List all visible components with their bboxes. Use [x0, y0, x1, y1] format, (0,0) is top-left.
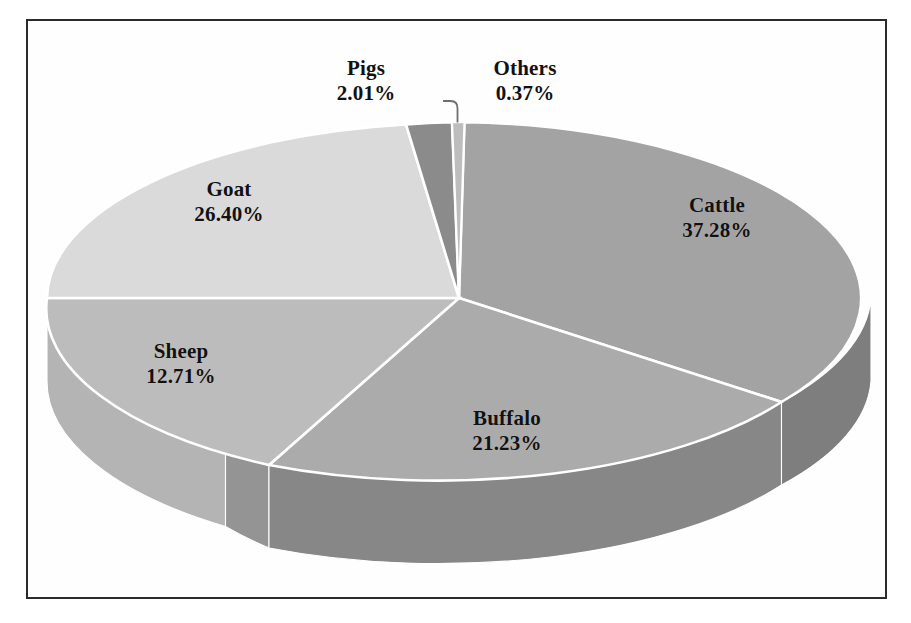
- label-others-name: Others: [450, 56, 600, 81]
- figure-canvas: Cattle 37.28% Buffalo 21.23% Sheep 12.71…: [0, 0, 911, 623]
- label-sheep-name: Sheep: [86, 339, 276, 364]
- label-cattle: Cattle 37.28%: [622, 193, 812, 243]
- label-pigs-name: Pigs: [301, 56, 431, 81]
- label-cattle-value: 37.28%: [622, 218, 812, 243]
- label-goat: Goat 26.40%: [134, 177, 324, 227]
- label-pigs: Pigs 2.01%: [301, 56, 431, 106]
- label-sheep-value: 12.71%: [86, 364, 276, 389]
- label-pigs-value: 2.01%: [301, 81, 431, 106]
- label-goat-value: 26.40%: [134, 202, 324, 227]
- label-others-value: 0.37%: [450, 81, 600, 106]
- label-others: Others 0.37%: [450, 56, 600, 106]
- label-buffalo-name: Buffalo: [412, 406, 602, 431]
- label-sheep: Sheep 12.71%: [86, 339, 276, 389]
- label-cattle-name: Cattle: [622, 193, 812, 218]
- label-buffalo-value: 21.23%: [412, 431, 602, 456]
- label-buffalo: Buffalo 21.23%: [412, 406, 602, 456]
- label-goat-name: Goat: [134, 177, 324, 202]
